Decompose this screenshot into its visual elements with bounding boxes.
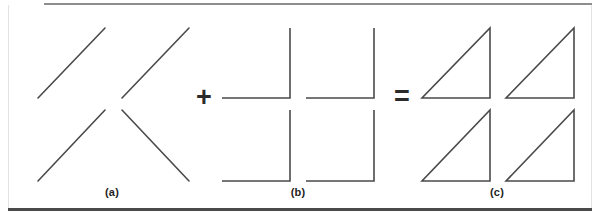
corner-bottom-left-bracket <box>222 110 290 181</box>
triangle-bottom-left-shape <box>422 110 490 181</box>
corner-top-left-bracket <box>222 28 290 98</box>
plus-operator: + <box>190 84 218 111</box>
panel-c-artwork <box>422 28 574 181</box>
diagonal-bottom-right-stroke <box>122 110 189 181</box>
figure-container: + = (a) (b) (c) <box>0 0 599 223</box>
diagonal-bottom-left-stroke <box>38 110 105 181</box>
triangle-bottom-right-shape <box>506 110 574 181</box>
triangle-top-right-shape <box>506 28 574 98</box>
triangle-top-left-shape <box>422 28 490 98</box>
corner-top-right-bracket <box>306 28 374 98</box>
diagonal-top-left-stroke <box>38 28 105 98</box>
panel-a-caption: (a) <box>82 186 142 198</box>
panel-b-caption: (b) <box>268 186 328 198</box>
panel-b-artwork <box>222 28 374 181</box>
equals-operator: = <box>388 83 416 110</box>
corner-bottom-right-bracket <box>306 110 374 181</box>
panel-c-caption: (c) <box>467 186 527 198</box>
panel-a-artwork <box>38 28 189 181</box>
diagonal-top-right-stroke <box>122 28 189 98</box>
